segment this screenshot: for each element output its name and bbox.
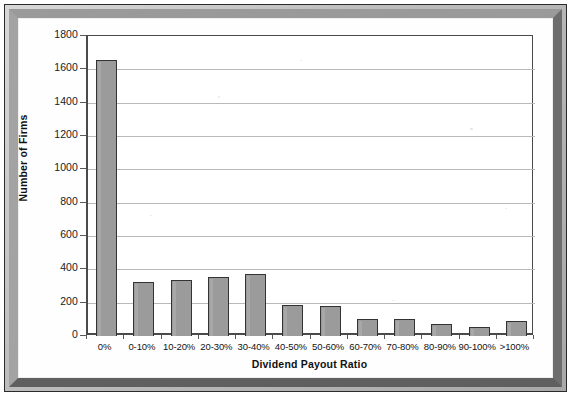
plot-area: [86, 35, 533, 335]
bar: [320, 306, 341, 336]
gridline: [88, 103, 535, 104]
y-axis-tick-label: 800: [8, 195, 78, 207]
bar-chart: Number of Firms 020040060080010001200140…: [0, 0, 571, 396]
y-axis-tick: [80, 135, 86, 136]
y-axis-tick: [80, 235, 86, 236]
x-axis-tick: [161, 335, 162, 339]
bar: [506, 321, 527, 336]
x-axis-tick: [496, 335, 497, 339]
y-axis-tick-label: 1600: [8, 61, 78, 73]
x-axis-tick: [235, 335, 236, 339]
x-axis-tick: [421, 335, 422, 339]
y-axis-tick: [80, 35, 86, 36]
y-axis-tick-label: 200: [8, 295, 78, 307]
y-axis-tick-label: 1000: [8, 161, 78, 173]
x-axis-tick: [384, 335, 385, 339]
bar: [357, 319, 378, 336]
y-axis-tick-label: 1200: [8, 128, 78, 140]
y-axis-tick: [80, 268, 86, 269]
x-axis-tick: [310, 335, 311, 339]
x-axis-tick: [198, 335, 199, 339]
y-axis-tick-label: 0: [8, 328, 78, 340]
x-axis-tick-label: >100%: [484, 341, 544, 352]
gridline: [88, 303, 535, 304]
x-axis-tick: [533, 335, 534, 339]
gridline: [88, 236, 535, 237]
y-axis-tick: [80, 202, 86, 203]
gridline: [88, 169, 535, 170]
bar: [133, 282, 154, 336]
x-axis-tick: [272, 335, 273, 339]
y-axis-tick-label: 1800: [8, 28, 78, 40]
x-axis-tick: [123, 335, 124, 339]
y-axis-tick: [80, 68, 86, 69]
bar: [469, 327, 490, 336]
bar: [394, 319, 415, 336]
y-axis-tick-label: 1400: [8, 95, 78, 107]
bar: [208, 277, 229, 336]
y-axis-tick-label: 600: [8, 228, 78, 240]
gridline: [88, 269, 535, 270]
y-axis-tick: [80, 302, 86, 303]
x-axis-title: Dividend Payout Ratio: [86, 358, 533, 370]
x-axis-tick: [347, 335, 348, 339]
x-axis-tick: [459, 335, 460, 339]
gridline: [88, 203, 535, 204]
x-axis-tick: [86, 335, 87, 339]
y-axis-tick-labels: 020040060080010001200140016001800: [0, 0, 78, 396]
gridline: [88, 136, 535, 137]
y-axis-tick: [80, 102, 86, 103]
bar: [282, 305, 303, 336]
y-axis-tick: [80, 168, 86, 169]
gridline: [88, 69, 535, 70]
figure-root: Number of Firms 020040060080010001200140…: [0, 0, 571, 396]
bar: [171, 280, 192, 336]
bar: [96, 60, 117, 336]
bar: [431, 324, 452, 337]
y-axis-tick-label: 400: [8, 261, 78, 273]
bar: [245, 274, 266, 336]
